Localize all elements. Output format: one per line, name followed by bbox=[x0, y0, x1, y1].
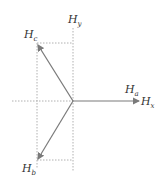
hb-arrow bbox=[38, 101, 73, 159]
hc-arrow bbox=[38, 45, 73, 101]
label-hx: Hx bbox=[141, 96, 155, 110]
label-hb: Hb bbox=[22, 163, 36, 177]
label-hc: Hc bbox=[24, 29, 38, 43]
label-ha: Ha bbox=[125, 84, 139, 98]
label-hy: Hy bbox=[68, 14, 82, 28]
